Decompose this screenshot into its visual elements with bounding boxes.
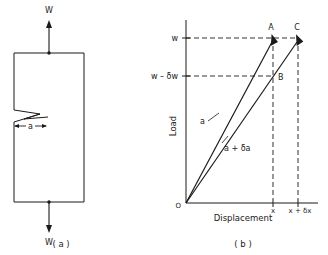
origin-label: O bbox=[175, 202, 181, 210]
y-tick-label-w: w bbox=[171, 34, 178, 43]
crack-length-label: a bbox=[28, 122, 33, 131]
panel-a-group: W bbox=[14, 6, 84, 249]
arrowhead-icon-c bbox=[291, 33, 303, 46]
x-tick-label-x-plus-dx: x + δx bbox=[289, 207, 312, 215]
point-label-a: A bbox=[268, 23, 274, 32]
leader-line-a-plus-da bbox=[222, 136, 228, 143]
panel-a-caption: ( a ) bbox=[52, 239, 69, 249]
leader-line-a bbox=[208, 113, 219, 121]
panel-b-group: Load Displacement O w w – δw x x + δx bbox=[151, 20, 318, 249]
y-tick-label-w-minus-dw: w – δw bbox=[151, 72, 179, 81]
panel-b-caption: ( b ) bbox=[234, 239, 251, 249]
x-axis-title: Displacement bbox=[214, 213, 273, 223]
point-label-b: B bbox=[278, 73, 284, 82]
arrow-down-icon bbox=[46, 202, 52, 233]
point-label-c: C bbox=[294, 23, 300, 32]
figure-svg: W bbox=[0, 0, 328, 255]
arrow-up-icon bbox=[46, 20, 52, 53]
arrowhead-icon-a bbox=[266, 33, 278, 46]
x-tick-label-x: x bbox=[271, 207, 275, 215]
specimen-outline bbox=[14, 53, 84, 202]
line-label-a: a bbox=[200, 117, 205, 126]
figure-root: W bbox=[0, 0, 328, 255]
crack-zigzag-icon bbox=[14, 110, 48, 122]
line-label-a-plus-da: a + δa bbox=[224, 144, 251, 153]
y-axis-title: Load bbox=[168, 116, 178, 136]
load-label-top: W bbox=[45, 6, 53, 15]
